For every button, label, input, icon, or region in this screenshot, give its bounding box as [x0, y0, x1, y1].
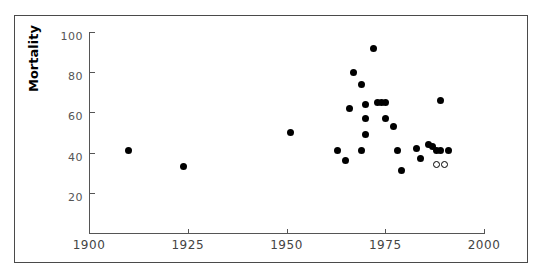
data-point	[362, 131, 369, 138]
x-tick-label-1950: 1950	[270, 238, 303, 252]
y-tick-label-20: 20	[50, 186, 83, 205]
data-point	[445, 147, 452, 154]
data-point	[398, 167, 405, 174]
data-point	[382, 99, 389, 106]
data-point	[382, 115, 389, 122]
x-tick-label-1975: 1975	[369, 238, 402, 252]
data-point	[362, 115, 369, 122]
x-tick-label-2000: 2000	[468, 238, 501, 252]
data-point	[390, 123, 397, 130]
y-tick-label-text: 20	[68, 191, 83, 204]
y-tick-label-text: 60	[68, 110, 83, 123]
y-tick-label-80: 80	[50, 65, 83, 84]
y-tick-label-60: 60	[50, 105, 83, 124]
data-point	[358, 81, 365, 88]
data-point	[287, 129, 294, 136]
x-tick-2000	[484, 229, 485, 234]
y-axis-label: Mortality	[26, 25, 41, 92]
y-tick-label-40: 40	[50, 146, 83, 165]
data-point	[394, 147, 401, 154]
figure: Mortality 20406080100 190019251950197520…	[0, 0, 542, 280]
y-tick-label-text: 100	[61, 30, 84, 43]
data-point	[350, 69, 357, 76]
data-point	[370, 45, 377, 52]
x-tick-label-1925: 1925	[171, 238, 204, 252]
y-tick-label-text: 80	[68, 70, 83, 83]
data-point	[362, 101, 369, 108]
y-tick-label-text: 40	[68, 151, 83, 164]
data-point	[437, 97, 444, 104]
x-tick-label-1900: 1900	[73, 238, 106, 252]
y-tick-label-100: 100	[50, 25, 83, 44]
data-point	[346, 105, 353, 112]
